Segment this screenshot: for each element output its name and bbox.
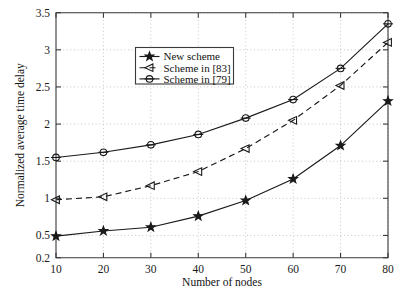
x-tick-label: 60 [287,263,299,275]
x-tick-label: 80 [382,263,394,275]
series-line [56,101,388,236]
legend-label: New scheme [164,50,221,62]
y-tick-label: 1 [44,192,50,204]
series-new-scheme [52,96,393,239]
marker-star [52,232,61,240]
marker-star [241,196,250,204]
y-tick-label: 3.5 [36,7,51,19]
legend-label: Scheme in [79] [164,73,231,85]
legend-label: Scheme in [83] [164,62,231,74]
chart-figure: 10203040506070800.20.511.522.533.5Number… [0,0,415,306]
series-scheme-in-79 [51,21,393,161]
marker-star [99,226,108,234]
y-tick-label: 0.2 [36,252,51,264]
y-tick-label: 3 [44,44,50,56]
normalized-average-time-delay-line-chart: 10203040506070800.20.511.522.533.5Number… [0,0,415,306]
x-axis-title: Number of nodes [182,276,262,288]
x-tick-label: 40 [193,263,205,275]
x-tick-label: 70 [335,263,347,275]
x-tick-label: 30 [145,263,157,275]
marker-star [146,223,155,231]
x-tick-label: 20 [98,263,110,275]
y-tick-label: 2.5 [36,81,51,93]
y-tick-label: 1.5 [36,155,51,167]
y-tick-label: 0.5 [36,229,51,241]
marker-left-triangle [99,193,107,201]
x-tick-label: 50 [240,263,252,275]
marker-star [289,174,298,182]
legend: New schemeScheme in [83]Scheme in [79] [136,48,234,85]
y-gridlines: 0.20.511.522.533.5 [36,7,388,264]
marker-star [194,212,203,220]
y-tick-label: 2 [44,118,50,130]
y-axis-title: Normalized average time delay [14,63,27,207]
series-line [56,24,388,158]
x-tick-label: 10 [50,263,62,275]
marker-left-triangle [241,145,249,153]
